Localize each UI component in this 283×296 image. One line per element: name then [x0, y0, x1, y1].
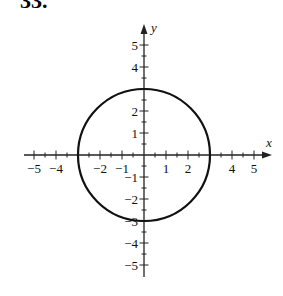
y-axis-arrow-icon	[141, 24, 148, 34]
x-axis-label: x	[265, 135, 272, 150]
x-axis-arrow-icon	[262, 152, 272, 159]
x-tick-label: −4	[49, 161, 63, 176]
y-tick-label: −1	[124, 170, 138, 185]
y-tick-label: −5	[124, 258, 138, 273]
x-tick-label: 5	[251, 161, 258, 176]
x-tick-label: 2	[185, 161, 192, 176]
y-tick-label: 1	[132, 126, 139, 141]
y-tick-label: 4	[132, 60, 139, 75]
y-tick-label: 5	[132, 38, 139, 53]
y-tick-label: −2	[124, 192, 138, 207]
x-tick-label: 1	[163, 161, 170, 176]
y-tick-label: −4	[124, 236, 138, 251]
y-tick-label: 2	[132, 104, 139, 119]
y-axis-label: y	[149, 20, 157, 35]
x-tick-label: −2	[93, 161, 107, 176]
circle-plot: −5−4−2−112455421−1−2−3−4−5xy	[0, 0, 283, 296]
x-tick-label: −5	[27, 161, 41, 176]
x-tick-label: 4	[229, 161, 236, 176]
